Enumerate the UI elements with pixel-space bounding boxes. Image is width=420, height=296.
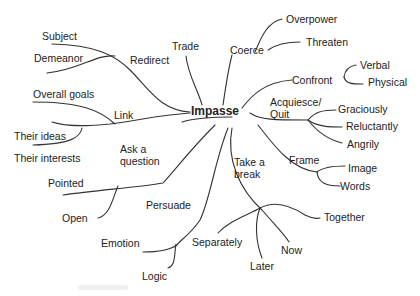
center-node: Impasse bbox=[191, 105, 239, 117]
line-later bbox=[256, 208, 262, 258]
node-pointed: Pointed bbox=[48, 177, 84, 189]
node-open: Open bbox=[62, 212, 88, 224]
node-reluctantly: Reluctantly bbox=[346, 120, 398, 132]
line-physical bbox=[344, 77, 363, 84]
line-overall-goals bbox=[33, 102, 115, 124]
node-demeanor: Demeanor bbox=[34, 52, 83, 64]
line-trade bbox=[186, 56, 202, 105]
node-their-ideas: Their ideas bbox=[14, 130, 66, 142]
node-now: Now bbox=[281, 244, 302, 256]
scan-smudge bbox=[78, 285, 128, 290]
line-separately bbox=[218, 208, 260, 233]
node-frame: Frame bbox=[289, 154, 319, 166]
line-image bbox=[317, 166, 345, 172]
node-separately: Separately bbox=[192, 236, 242, 248]
line-words bbox=[317, 172, 340, 186]
node-threaten: Threaten bbox=[306, 36, 348, 48]
node-physical: Physical bbox=[368, 76, 407, 88]
node-overall-goals: Overall goals bbox=[33, 88, 94, 100]
node-confront: Confront bbox=[292, 74, 332, 86]
line-threaten bbox=[268, 42, 300, 50]
line-verbal bbox=[344, 65, 356, 77]
node-subject: Subject bbox=[42, 30, 77, 42]
line-together bbox=[260, 204, 320, 218]
node-words: Words bbox=[340, 180, 370, 192]
node-link: Link bbox=[114, 109, 133, 121]
node-their-interests: Their interests bbox=[14, 152, 81, 164]
node-angrily: Angrily bbox=[347, 138, 379, 150]
line-emotion bbox=[143, 245, 177, 252]
line-take-break bbox=[231, 128, 289, 242]
node-emotion: Emotion bbox=[101, 237, 140, 249]
node-acquiesce-quit: Acquiesce/ Quit bbox=[270, 96, 321, 120]
node-coerce: Coerce bbox=[230, 44, 264, 56]
node-image: Image bbox=[348, 162, 377, 174]
node-redirect: Redirect bbox=[130, 54, 169, 66]
node-verbal: Verbal bbox=[360, 59, 390, 71]
node-together: Together bbox=[324, 211, 365, 223]
node-overpower: Overpower bbox=[286, 13, 337, 25]
node-later: Later bbox=[250, 260, 274, 272]
node-trade: Trade bbox=[172, 40, 199, 52]
line-persuade bbox=[177, 128, 228, 245]
node-graciously: Graciously bbox=[338, 103, 388, 115]
node-logic: Logic bbox=[142, 270, 167, 282]
node-take-a-break: Take a break bbox=[234, 156, 265, 180]
line-coerce bbox=[223, 55, 232, 105]
node-ask-a-question: Ask a question bbox=[120, 143, 160, 167]
mind-map-canvas: Impasse Subject Demeanor Redirect Trade … bbox=[0, 0, 420, 296]
node-persuade: Persuade bbox=[146, 199, 191, 211]
